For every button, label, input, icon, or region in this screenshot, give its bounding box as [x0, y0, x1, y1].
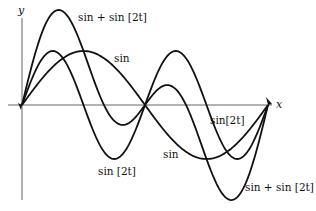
y-axis-label: y	[17, 4, 25, 17]
label-sin-mid: sin	[163, 148, 179, 160]
label-sum-top: sin + sin [2t]	[78, 11, 147, 23]
x-axis-label: x	[276, 98, 283, 111]
label-sin-top: sin	[114, 52, 130, 64]
plot-canvas: y x sin + sin [2t] sin sin[2t] sin sin […	[0, 0, 316, 211]
label-sin2-right: sin[2t]	[210, 114, 245, 126]
label-sin2-bottom: sin [2t]	[98, 165, 136, 177]
arrow-right-icon	[266, 97, 272, 105]
label-sum-bottom: sin + sin [2t]	[245, 181, 314, 193]
